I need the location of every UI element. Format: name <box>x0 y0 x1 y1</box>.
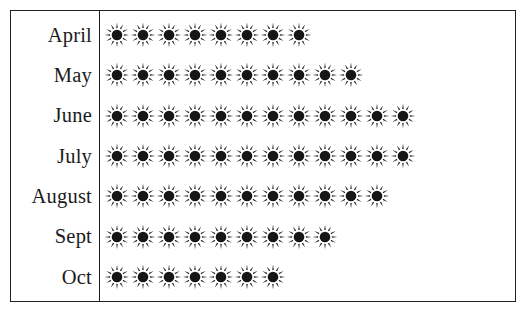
sun-icon <box>286 22 312 48</box>
sun-icon <box>208 103 234 129</box>
sun-icon <box>104 103 130 129</box>
row-label: Sept <box>11 216 99 256</box>
sun-icon <box>182 22 208 48</box>
sun-icon <box>156 264 182 290</box>
sun-icon <box>104 183 130 209</box>
sun-icon <box>104 22 130 48</box>
sun-icon <box>130 183 156 209</box>
sun-icon <box>338 183 364 209</box>
sun-icon <box>182 103 208 129</box>
sun-icon <box>104 264 130 290</box>
sun-icon <box>156 103 182 129</box>
sun-icon <box>208 224 234 250</box>
sun-icon <box>182 143 208 169</box>
pictograph-row <box>104 55 515 95</box>
sun-icon <box>130 264 156 290</box>
sun-icon <box>130 62 156 88</box>
month-label-column: April May June July August Sept Oct <box>11 11 100 301</box>
row-label: July <box>11 136 99 176</box>
sun-icon <box>286 143 312 169</box>
sun-icon <box>130 224 156 250</box>
pictograph-row <box>104 216 515 256</box>
sun-icon <box>260 103 286 129</box>
sun-icon <box>234 103 260 129</box>
pictograph-rows-column <box>100 11 515 301</box>
sun-icon <box>156 62 182 88</box>
sun-icon <box>338 143 364 169</box>
sun-icon <box>234 264 260 290</box>
sun-icon <box>130 143 156 169</box>
sun-icon <box>260 224 286 250</box>
pictograph-row <box>104 96 515 136</box>
sun-icon <box>156 224 182 250</box>
sun-icon <box>208 183 234 209</box>
sun-icon <box>286 62 312 88</box>
sun-icon <box>260 22 286 48</box>
sun-icon <box>390 143 416 169</box>
sun-icon <box>234 224 260 250</box>
sun-icon <box>130 103 156 129</box>
sun-icon <box>182 183 208 209</box>
sun-icon <box>260 143 286 169</box>
sun-icon <box>260 264 286 290</box>
sun-icon <box>286 183 312 209</box>
sun-icon <box>104 224 130 250</box>
sun-icon <box>208 62 234 88</box>
row-label: June <box>11 96 99 136</box>
sun-icon <box>312 183 338 209</box>
sun-icon <box>234 143 260 169</box>
sun-icon <box>338 103 364 129</box>
sun-icon <box>338 62 364 88</box>
sun-icon <box>208 143 234 169</box>
sun-icon <box>104 62 130 88</box>
sun-icon <box>260 62 286 88</box>
sun-icon <box>260 183 286 209</box>
row-label: Oct <box>11 257 99 297</box>
sun-icon <box>130 22 156 48</box>
sun-icon <box>286 224 312 250</box>
sun-icon <box>234 183 260 209</box>
sun-icon <box>156 22 182 48</box>
pictograph-row <box>104 257 515 297</box>
sun-icon <box>182 224 208 250</box>
row-label: May <box>11 55 99 95</box>
sun-icon <box>312 62 338 88</box>
sun-icon <box>364 183 390 209</box>
sun-icon <box>312 103 338 129</box>
sun-icon <box>156 183 182 209</box>
pictograph-row <box>104 15 515 55</box>
row-label: August <box>11 176 99 216</box>
sun-icon <box>234 22 260 48</box>
sun-icon <box>312 224 338 250</box>
sun-icon <box>182 62 208 88</box>
sun-icon <box>364 143 390 169</box>
sun-icon <box>156 143 182 169</box>
pictograph-row <box>104 176 515 216</box>
sun-icon <box>208 264 234 290</box>
sun-icon <box>390 103 416 129</box>
row-label: April <box>11 15 99 55</box>
sun-icon <box>104 143 130 169</box>
sun-icon <box>208 22 234 48</box>
sun-icon <box>312 143 338 169</box>
pictograph-row <box>104 136 515 176</box>
pictograph-table: April May June July August Sept Oct <box>10 10 516 302</box>
sun-icon <box>286 103 312 129</box>
sun-icon <box>182 264 208 290</box>
sun-icon <box>234 62 260 88</box>
sun-icon <box>364 103 390 129</box>
